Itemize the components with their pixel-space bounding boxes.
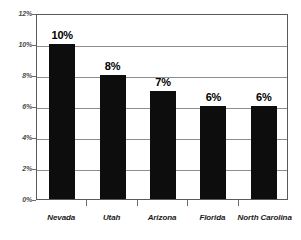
y-axis-tick-label: 4%: [2, 134, 32, 142]
x-axis-tick-mark: [187, 200, 188, 206]
bar[interactable]: [251, 106, 277, 199]
plot-area: 10%8%7%6%6%: [36, 14, 288, 200]
y-axis-tick-label: 8%: [2, 72, 32, 80]
bar-value-label: 6%: [206, 91, 222, 103]
bar-chart: 0%2%4%6%8%10%12% 10%8%7%6%6% NevadaUtahA…: [0, 0, 301, 240]
bar[interactable]: [49, 44, 75, 199]
bar-value-label: 6%: [256, 91, 272, 103]
y-axis-tick-label: 10%: [2, 41, 32, 49]
x-axis-category-label: Utah: [86, 213, 136, 222]
bar[interactable]: [200, 106, 226, 199]
x-axis-category-label: Arizona: [137, 213, 187, 222]
y-axis-tick-label: 6%: [2, 103, 32, 111]
bars-group: 10%8%7%6%6%: [37, 15, 287, 199]
bar-slot: 8%: [87, 15, 137, 199]
bar-slot: 6%: [188, 15, 238, 199]
x-axis-category-label: Florida: [187, 213, 237, 222]
bar-value-label: 10%: [51, 29, 72, 41]
y-axis-tick-label: 2%: [2, 165, 32, 173]
bar-slot: 7%: [138, 15, 188, 199]
y-axis-tick-label: 0%: [2, 196, 32, 204]
bar[interactable]: [100, 75, 126, 199]
x-axis-category-label: Nevada: [36, 213, 86, 222]
bar-value-label: 8%: [105, 60, 121, 72]
bar-slot: 10%: [37, 15, 87, 199]
x-axis: NevadaUtahArizonaFloridaNorth Carolina: [36, 200, 288, 240]
bar-slot: 6%: [239, 15, 289, 199]
y-axis: 0%2%4%6%8%10%12%: [0, 0, 32, 240]
x-axis-tick-mark: [238, 200, 239, 206]
bar[interactable]: [150, 91, 176, 200]
x-axis-tick-mark: [137, 200, 138, 206]
bar-value-label: 7%: [155, 76, 171, 88]
y-axis-tick-label: 12%: [2, 10, 32, 18]
x-axis-category-label: North Carolina: [238, 213, 288, 222]
x-axis-tick-mark: [86, 200, 87, 206]
